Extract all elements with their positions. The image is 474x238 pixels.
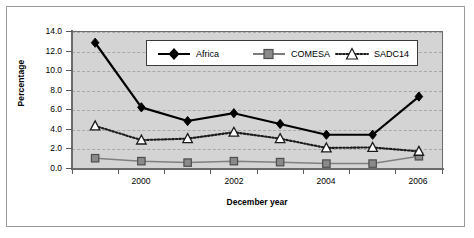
gridline-8 — [72, 91, 442, 92]
x-tick-mark-7 — [395, 169, 396, 174]
y-tick-mark-8 — [66, 90, 72, 91]
y-tick-label-12: 12.0 — [28, 47, 62, 56]
legend-label-comesa: COMESA — [291, 49, 330, 59]
y-tick-label-14: 14.0 — [28, 27, 62, 36]
x-tick-label-2000: 2000 — [119, 176, 163, 186]
x-tick-mark-1 — [118, 169, 119, 174]
gridline-2 — [72, 149, 442, 150]
y-tick-label-0: 0.0 — [28, 164, 62, 173]
y-tick-label-2: 2.0 — [28, 144, 62, 153]
x-tick-label-2006: 2006 — [396, 176, 440, 186]
legend-entry-africa[interactable]: Africa — [157, 41, 219, 67]
x-tick-label-2002: 2002 — [212, 176, 256, 186]
africa-diamond-icon — [157, 46, 191, 62]
x-tick-mark-4 — [257, 169, 258, 174]
x-axis-title: December year — [72, 197, 442, 207]
x-tick-mark-5 — [303, 169, 304, 174]
x-tick-mark-8 — [442, 169, 443, 174]
y-tick-label-8: 8.0 — [28, 86, 62, 95]
y-tick-mark-12 — [66, 51, 72, 52]
x-tick-mark-2 — [164, 169, 165, 174]
gridline-6 — [72, 110, 442, 111]
legend-label-africa: Africa — [196, 49, 219, 59]
figure: Percentage 14.0 12.0 10.0 8.0 6.0 4.0 2.… — [0, 0, 474, 238]
comesa-square-icon — [252, 46, 286, 62]
y-tick-mark-2 — [66, 148, 72, 149]
x-tick-mark-6 — [349, 169, 350, 174]
y-tick-mark-4 — [66, 129, 72, 130]
gridline-10 — [72, 71, 442, 72]
legend: Africa COMESA SADC14 — [146, 40, 418, 66]
gridline-4 — [72, 130, 442, 131]
sadc14-triangle-icon — [335, 46, 369, 62]
x-tick-label-2004: 2004 — [304, 176, 348, 186]
y-tick-mark-6 — [66, 109, 72, 110]
legend-entry-sadc14[interactable]: SADC14 — [335, 41, 409, 67]
y-tick-mark-14 — [66, 31, 72, 32]
y-axis-title: Percentage — [16, 40, 26, 126]
legend-entry-comesa[interactable]: COMESA — [252, 41, 330, 67]
y-tick-label-6: 6.0 — [28, 105, 62, 114]
y-tick-label-4: 4.0 — [28, 125, 62, 134]
gridline-14 — [72, 32, 442, 33]
x-tick-mark-0 — [72, 169, 73, 174]
y-tick-mark-10 — [66, 70, 72, 71]
y-tick-label-10: 10.0 — [28, 66, 62, 75]
legend-label-sadc14: SADC14 — [374, 49, 409, 59]
x-tick-mark-3 — [210, 169, 211, 174]
